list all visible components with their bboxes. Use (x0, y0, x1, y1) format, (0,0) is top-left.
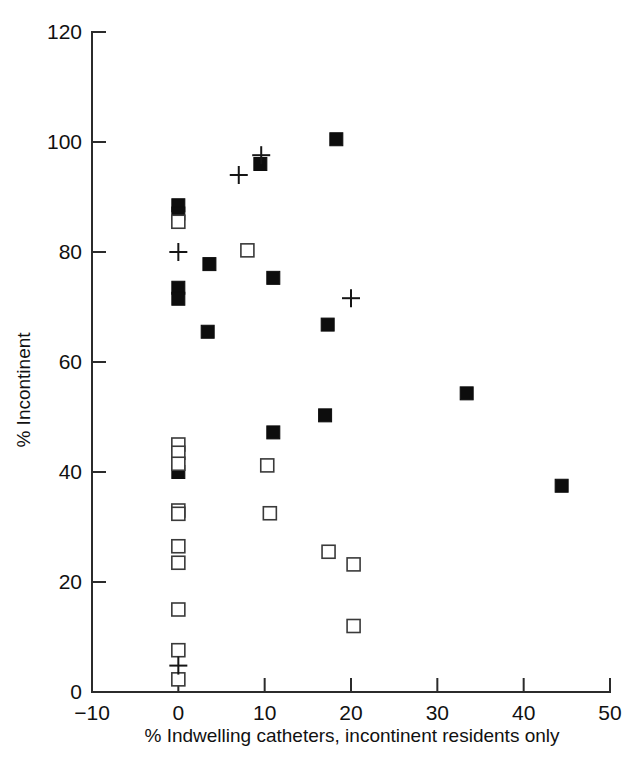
x-tick-label: 30 (426, 701, 449, 724)
data-markers (169, 133, 568, 686)
y-tick-labels: 020406080100120 (47, 20, 82, 703)
marker-plus (169, 657, 187, 675)
marker-filled-square (201, 325, 214, 338)
marker-filled-square (460, 387, 473, 400)
marker-open-square (172, 644, 185, 657)
x-tick-labels: −1001020304050 (74, 701, 621, 724)
x-tick-label: 40 (512, 701, 535, 724)
plot-canvas: 020406080100120 −1001020304050 % Indwell… (0, 0, 631, 762)
x-tick-label: −10 (74, 701, 110, 724)
y-tick-label: 120 (47, 20, 82, 43)
marker-plus (230, 166, 248, 184)
y-tick-label: 20 (59, 570, 82, 593)
x-tick-label: 20 (339, 701, 362, 724)
marker-open-square (172, 507, 185, 520)
marker-plus (342, 289, 360, 307)
marker-open-square (263, 507, 276, 520)
marker-open-square (347, 620, 360, 633)
x-tick-label: 50 (598, 701, 621, 724)
marker-filled-square (330, 133, 343, 146)
marker-open-square (172, 603, 185, 616)
marker-filled-square (321, 318, 334, 331)
marker-filled-square (555, 479, 568, 492)
y-axis-title: % Incontinent (13, 332, 34, 448)
y-tick-label: 80 (59, 240, 82, 263)
tick-marks (92, 32, 610, 692)
marker-open-square (172, 556, 185, 569)
marker-filled-square (267, 271, 280, 284)
marker-open-square (241, 244, 254, 257)
marker-open-square (172, 673, 185, 686)
marker-open-square (347, 558, 360, 571)
marker-open-square (261, 459, 274, 472)
y-tick-label: 40 (59, 460, 82, 483)
axis-spines (92, 32, 610, 692)
marker-filled-square (267, 426, 280, 439)
marker-filled-square (203, 258, 216, 271)
marker-filled-square (172, 292, 185, 305)
marker-plus (169, 243, 187, 261)
x-tick-label: 0 (172, 701, 184, 724)
marker-open-square (172, 540, 185, 553)
marker-open-square (322, 545, 335, 558)
scatter-plot-figure: 020406080100120 −1001020304050 % Indwell… (0, 0, 631, 762)
x-axis-title: % Indwelling catheters, incontinent resi… (144, 725, 560, 746)
axes (92, 32, 610, 692)
y-tick-label: 100 (47, 130, 82, 153)
marker-filled-square (319, 409, 332, 422)
marker-open-square (172, 457, 185, 470)
y-tick-label: 0 (70, 680, 82, 703)
y-tick-label: 60 (59, 350, 82, 373)
x-tick-label: 10 (253, 701, 276, 724)
marker-open-square (172, 215, 185, 228)
